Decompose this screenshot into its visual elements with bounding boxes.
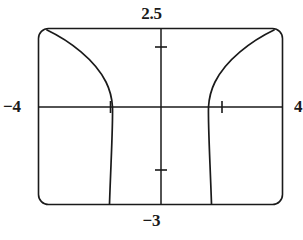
curve-left-branch (47, 30, 113, 204)
x-min-label: −4 (3, 98, 21, 115)
y-max-label: 2.5 (0, 5, 303, 22)
graph-screenshot: 2.5 −3 −4 4 (0, 0, 303, 240)
x-max-label: 4 (294, 98, 303, 115)
plot-canvas (0, 0, 303, 240)
y-min-label: −3 (0, 212, 303, 229)
curve-right-branch (208, 30, 274, 204)
